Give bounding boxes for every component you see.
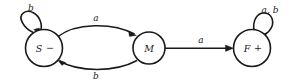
transition-label-m-to-s: b <box>93 71 99 81</box>
state-mark-f: + <box>254 42 262 53</box>
state-label-s: S <box>36 43 43 54</box>
edge-path-m-to-s <box>60 61 138 70</box>
state-label-f: F <box>243 43 251 54</box>
state-circle-f[interactable] <box>234 30 271 67</box>
transition-s-to-m <box>58 26 136 37</box>
state-node-m[interactable]: M <box>133 32 165 64</box>
fsm-diagram: S − M F + b a b a a, b <box>0 0 291 83</box>
edge-path-s-to-m <box>58 26 135 37</box>
state-node-f[interactable]: F + <box>234 30 271 67</box>
transition-label-s-to-m: a <box>93 13 98 23</box>
state-label-m: M <box>143 43 154 54</box>
transition-m-to-f <box>165 45 234 51</box>
transition-label-f-self-loop: a, b <box>262 5 279 15</box>
fsm-canvas: S − M F + b a b a a, b <box>0 0 291 83</box>
transition-label-m-to-f: a <box>198 35 203 45</box>
transition-label-s-self-loop: b <box>28 3 34 13</box>
arrowhead-s-to-m <box>129 31 137 36</box>
state-circle-s[interactable] <box>26 30 63 67</box>
arrowhead-m-to-s <box>58 60 66 66</box>
arrowhead-m-to-f <box>226 45 234 51</box>
state-node-s[interactable]: S − <box>26 30 63 67</box>
state-mark-s: − <box>46 42 54 53</box>
transition-m-to-s <box>58 60 137 70</box>
